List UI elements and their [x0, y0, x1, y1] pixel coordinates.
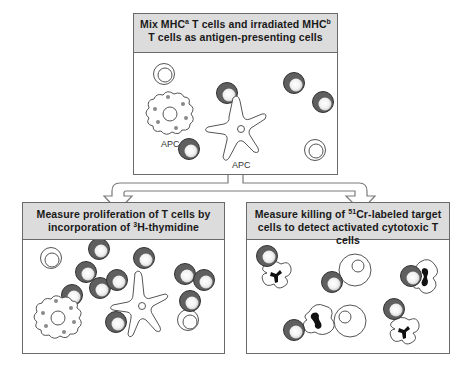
cytotoxicity-panel: Measure killing of 51Cr-labeled target c… — [246, 202, 450, 354]
cytotoxicity-illustration — [247, 240, 449, 353]
mix-cells-title: Mix MHCa T cells and irradiated MHCb T c… — [134, 14, 337, 53]
t-cell-icon — [313, 92, 334, 113]
apc-macrophage-icon — [34, 296, 81, 339]
proliferation-illustration — [23, 240, 224, 353]
apc-dendritic-icon — [206, 96, 267, 160]
target-cell-icon — [334, 305, 366, 337]
target-cell-icon — [339, 254, 371, 286]
cytotoxicity-title: Measure killing of 51Cr-labeled target c… — [247, 203, 449, 240]
resting-cell-icon — [178, 310, 199, 331]
proliferation-title: Measure proliferation of T cells by inco… — [23, 203, 224, 240]
apc-label: APC — [232, 160, 251, 170]
t-cell-icon — [107, 270, 128, 291]
t-cell-icon — [179, 139, 200, 160]
mix-cells-panel: Mix MHCa T cells and irradiated MHCb T c… — [133, 13, 338, 175]
t-cell-icon — [175, 264, 196, 285]
t-cell-icon — [89, 240, 110, 260]
resting-cell-icon — [154, 64, 175, 85]
t-cell-icon — [194, 270, 215, 291]
t-cell-icon — [401, 266, 422, 287]
dying-target-cell-icon — [390, 317, 419, 344]
mix-cells-illustration: APC APC — [134, 53, 337, 174]
apc-label: APC — [161, 139, 180, 149]
resting-cell-icon — [41, 248, 62, 269]
dying-target-cell-icon — [303, 304, 334, 334]
t-cell-icon — [180, 291, 201, 312]
t-cell-icon — [322, 272, 343, 293]
proliferation-panel: Measure proliferation of T cells by inco… — [22, 202, 225, 354]
t-cell-icon — [134, 248, 155, 269]
resting-cell-icon — [305, 140, 326, 161]
t-cell-icon — [284, 320, 305, 341]
apc-macrophage-icon — [146, 92, 193, 135]
t-cell-icon — [284, 73, 305, 94]
t-cell-icon — [257, 246, 278, 267]
t-cell-icon — [384, 299, 405, 320]
t-cell-icon — [106, 312, 127, 333]
